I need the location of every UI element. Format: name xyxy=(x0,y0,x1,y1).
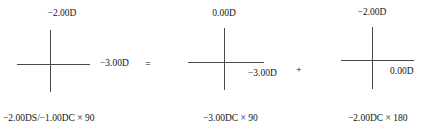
cross-3-vertical-meridian-line xyxy=(372,27,373,89)
cross-3-prescription-label: −2.00DC × 180 xyxy=(348,112,408,124)
cross-3-vertical-power-label: −2.00D xyxy=(358,7,387,18)
cross-2-vertical-power-label: 0.00D xyxy=(212,8,236,19)
cross-3-horizontal-power-label: 0.00D xyxy=(390,66,414,77)
cross-1-vertical-power-label: −2.00D xyxy=(48,8,77,19)
cross-2-horizontal-power-label: −3.00D xyxy=(248,68,277,79)
cross-1-horizontal-meridian-line xyxy=(17,64,90,65)
plus-operator: + xyxy=(296,64,302,75)
cross-2-prescription-label: −3.00DC × 90 xyxy=(203,112,258,124)
cross-3-horizontal-meridian-line xyxy=(341,60,414,61)
cross-2-horizontal-meridian-line xyxy=(188,62,264,63)
cross-1-horizontal-power-label: −3.00D xyxy=(100,58,129,69)
equals-operator: = xyxy=(145,58,151,69)
cross-1-vertical-meridian-line xyxy=(50,30,51,92)
cross-1-prescription-label: −2.00DS/−1.00DC × 90 xyxy=(3,112,95,124)
cross-2-vertical-meridian-line xyxy=(224,28,225,90)
